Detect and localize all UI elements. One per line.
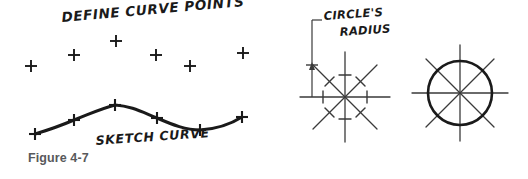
define-curve-points-text: DEFINE CURVE POINTS — [61, 0, 245, 25]
spokes-group — [412, 45, 508, 141]
plus-marker — [29, 128, 41, 140]
circles-radius-label: CIRCLE'S RADIUS — [323, 5, 391, 39]
plus-marker — [237, 47, 249, 59]
defined-points-group — [25, 35, 249, 72]
plus-marker — [109, 99, 121, 111]
circles-radius-line1: CIRCLE'S — [323, 5, 383, 23]
figure-4-8-artwork: CIRCLE'S RADIUS — [264, 0, 528, 179]
figure-4-7: DEFINE CURVE POINTS — [0, 0, 264, 179]
sketch-curve-label: SKETCH CURVE — [95, 125, 210, 148]
define-curve-points-label: DEFINE CURVE POINTS — [61, 0, 245, 25]
circle-through-points-diagram — [412, 45, 508, 141]
sketch-curve-text: SKETCH CURVE — [95, 125, 210, 148]
plus-marker — [151, 112, 163, 124]
plus-marker — [150, 49, 162, 61]
radius-dimension-leader — [306, 20, 322, 97]
figure-4-7-caption: Figure 4-7 — [28, 151, 89, 165]
figure-page: DEFINE CURVE POINTS — [0, 0, 528, 179]
figure-4-8: CIRCLE'S RADIUS Figure 4-8 — [264, 0, 528, 179]
plus-marker — [68, 49, 80, 61]
plus-marker — [110, 35, 122, 47]
spoke-star-diagram: CIRCLE'S RADIUS — [300, 5, 391, 142]
circles-radius-line2: RADIUS — [339, 21, 391, 39]
plus-marker — [184, 60, 196, 72]
plus-marker — [68, 114, 80, 126]
plus-marker — [25, 60, 37, 72]
